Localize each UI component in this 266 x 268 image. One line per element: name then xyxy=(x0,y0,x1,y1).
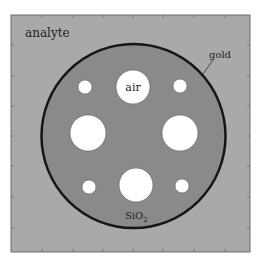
fiber-cross-section-diagram: analyte gold air SiO2 xyxy=(0,0,266,268)
air-hole-large-bottom xyxy=(119,168,153,202)
air-hole-small-top-left xyxy=(78,80,92,94)
air-hole-large-right xyxy=(162,115,198,151)
air-hole-small-bottom-right xyxy=(175,179,189,193)
gold-label: gold xyxy=(209,49,232,60)
air-label: air xyxy=(125,81,141,94)
air-hole-small-top-right xyxy=(173,79,187,93)
air-hole-small-bottom-left xyxy=(82,180,96,194)
analyte-label: analyte xyxy=(25,26,70,40)
air-hole-large-left xyxy=(70,115,106,151)
